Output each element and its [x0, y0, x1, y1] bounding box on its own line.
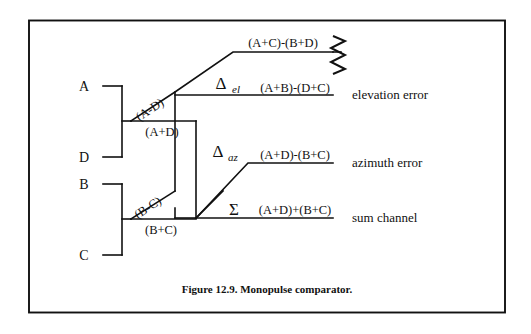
signal-label-b-minus-c: (B-C) — [132, 194, 164, 222]
output-expression-unused-port: (A+C)-(B+D) — [248, 36, 318, 50]
port-label-d: D — [79, 150, 89, 165]
output-symbol-sum: Σ — [229, 200, 239, 219]
figure-caption: Figure 12.9. Monopulse comparator. — [182, 283, 353, 295]
signal-label-a-minus-d: (A-D) — [133, 95, 166, 123]
signal-label-b-plus-c: (B+C) — [145, 223, 177, 237]
figure-border — [29, 21, 505, 313]
sum-riser — [196, 191, 223, 218]
zigzag-resistor-icon — [331, 36, 345, 74]
output-symbol-elevation: Δ — [216, 74, 227, 93]
output-expression-sum: (A+D)+(B+C) — [259, 203, 332, 217]
signal-label-a-plus-d: (A+D) — [145, 125, 178, 139]
output-description-sum: sum channel — [352, 210, 418, 225]
port-label-a: A — [79, 79, 90, 94]
output-expression-elevation: (A+B)-(D+C) — [260, 81, 330, 95]
output-subscript-azimuth: az — [228, 151, 239, 163]
output-expression-azimuth: (A+D)-(B+C) — [260, 148, 330, 162]
figure-page: A D B C (A-D) (A+D) (B-C) (B+C) (A+C)-(B… — [0, 0, 531, 334]
port-label-b: B — [79, 177, 88, 192]
monopulse-comparator-diagram: A D B C (A-D) (A+D) (B-C) (B+C) (A+C)-(B… — [0, 0, 531, 334]
output-symbol-azimuth: Δ — [213, 142, 224, 161]
output-subscript-elevation: el — [232, 83, 240, 95]
output-description-azimuth: azimuth error — [352, 155, 423, 170]
port-label-c: C — [79, 248, 88, 263]
output-description-elevation: elevation error — [352, 87, 429, 102]
